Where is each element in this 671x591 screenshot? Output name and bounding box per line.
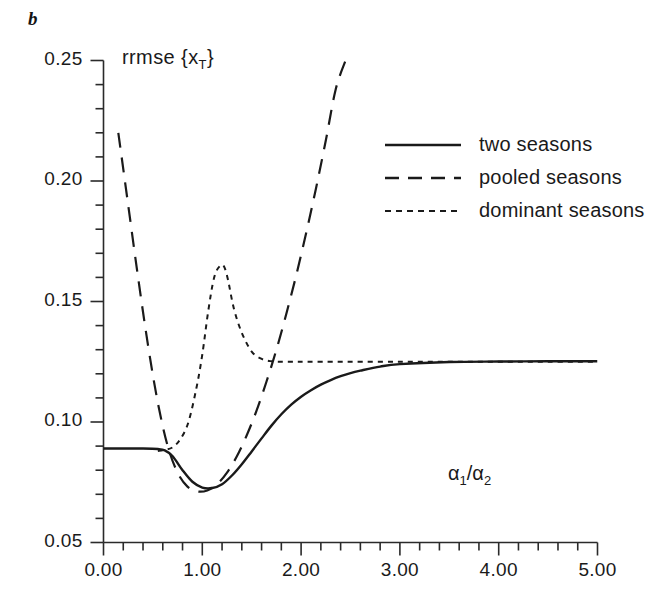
legend-item: dominant seasons: [383, 194, 645, 227]
x-tick-label: 1.00: [162, 559, 242, 581]
x-tick-label: 4.00: [459, 559, 539, 581]
y-tick-label: 0.15: [13, 289, 83, 311]
figure-panel-b: b rrmse {xT} α1/α2 0.050.100.150.200.25 …: [0, 0, 671, 591]
x-tick-label: 2.00: [261, 559, 341, 581]
y-tick-label: 0.25: [13, 48, 83, 70]
series-group: [104, 61, 598, 492]
x-tick-label: 5.00: [558, 559, 638, 581]
series-line-pooled-seasons: [118, 61, 345, 492]
y-tick-label: 0.05: [13, 530, 83, 552]
legend-label: two seasons: [479, 133, 592, 156]
legend-swatch-dotted-icon: [383, 204, 463, 218]
x-tick-label: 3.00: [360, 559, 440, 581]
legend-label: dominant seasons: [479, 199, 645, 222]
chart-legend: two seasonspooled seasonsdominant season…: [383, 128, 645, 227]
plot-canvas: [0, 0, 671, 591]
legend-item: two seasons: [383, 128, 645, 161]
x-tick-label: 0.00: [64, 559, 144, 581]
y-tick-label: 0.10: [13, 409, 83, 431]
legend-item: pooled seasons: [383, 161, 645, 194]
legend-swatch-dashed-icon: [383, 171, 463, 185]
legend-swatch-solid-icon: [383, 138, 463, 152]
series-line-dominant-seasons: [158, 265, 598, 451]
y-tick-label: 0.20: [13, 168, 83, 190]
series-line-two-seasons: [104, 361, 598, 488]
legend-label: pooled seasons: [479, 166, 622, 189]
